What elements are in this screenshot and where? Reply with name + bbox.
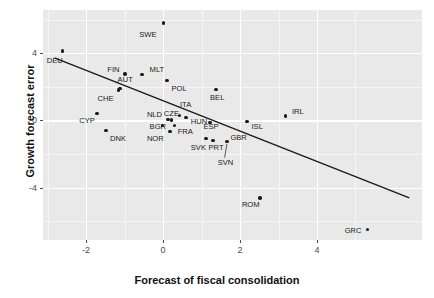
point-label: DEU (47, 56, 63, 65)
data-point (284, 114, 287, 117)
x-axis-tick-label: 4 (302, 245, 332, 255)
point-label: SWE (139, 30, 156, 39)
point-label: CYP (79, 116, 95, 125)
y-axis-title: Growth forecast error (24, 31, 36, 211)
data-point (214, 88, 217, 91)
data-point (140, 73, 143, 76)
x-axis-tick (86, 240, 87, 243)
data-point (170, 118, 173, 121)
x-axis-tick-label: -2 (71, 245, 101, 255)
point-label: CHE (98, 94, 114, 103)
y-axis-tick (40, 120, 43, 121)
point-label: FRA (178, 127, 193, 136)
data-point (184, 116, 187, 119)
point-label: FIN (107, 65, 119, 74)
point-label: SVK (191, 143, 206, 152)
point-label: POL (172, 84, 187, 93)
data-point (95, 112, 98, 115)
point-label: CZE (164, 109, 179, 118)
point-label: ISL (252, 122, 263, 131)
point-label: AUT (118, 75, 133, 84)
x-axis-tick-label: 2 (225, 245, 255, 255)
x-axis-tick (240, 240, 241, 243)
x-axis-title: Forecast of fiscal consolidation (0, 274, 434, 286)
scatter-plot-figure: SWEDEUFINMLTAUTPOLBELCHEITACYPNLDCZEHUNE… (0, 0, 434, 298)
point-label: ROM (242, 200, 260, 209)
y-axis-tick (40, 53, 43, 54)
point-label: MLT (150, 65, 165, 74)
leader-lines (43, 10, 422, 240)
data-point (258, 196, 261, 199)
point-label: ESP (203, 122, 218, 131)
plot-panel: SWEDEUFINMLTAUTPOLBELCHEITACYPNLDCZEHUNE… (43, 10, 422, 240)
point-label: PRT (209, 143, 224, 152)
point-label: BGR (150, 122, 166, 131)
x-axis-tick (163, 240, 164, 243)
point-label: NLD (147, 110, 162, 119)
y-axis-tick (40, 188, 43, 189)
point-label: GRC (345, 226, 362, 235)
x-axis-tick-label: 0 (148, 245, 178, 255)
point-label: ITA (180, 100, 191, 109)
point-label: NOR (147, 134, 164, 143)
point-label: DNK (110, 134, 126, 143)
data-point (61, 49, 64, 52)
point-label: BEL (210, 93, 224, 102)
point-label: GBR (230, 133, 246, 142)
point-label: SVN (218, 158, 234, 167)
x-axis-tick (317, 240, 318, 243)
point-label: IRL (292, 107, 304, 116)
data-point (245, 120, 248, 123)
data-point (168, 130, 171, 133)
